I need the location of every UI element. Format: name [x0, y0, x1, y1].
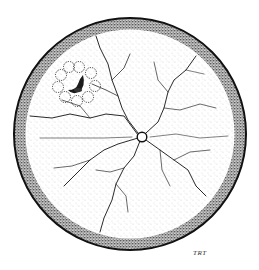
optic-disc	[137, 132, 147, 142]
artist-signature: TRT	[193, 249, 207, 257]
fundus-interior	[26, 30, 234, 238]
